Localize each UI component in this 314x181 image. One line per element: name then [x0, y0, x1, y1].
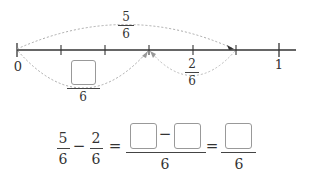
fraction-bar — [221, 152, 256, 153]
arrowhead-top-icon — [227, 45, 234, 50]
label-one: 1 — [273, 58, 285, 71]
fraction-bar — [67, 88, 100, 89]
fraction-bar — [90, 148, 103, 149]
fraction-numerator: 5 — [59, 131, 68, 145]
fraction-bar — [185, 72, 199, 73]
answer-box-subtrahend[interactable] — [174, 123, 201, 149]
answer-box-arc[interactable] — [71, 60, 96, 85]
fraction-denominator: 6 — [92, 152, 101, 166]
label-zero: 0 — [12, 60, 24, 73]
minus-operator: − — [72, 139, 86, 154]
fraction-bar — [57, 148, 70, 149]
number-line-diagram — [0, 0, 314, 181]
answer-box-minuend[interactable] — [130, 123, 157, 149]
equation-term2: 2 6 — [89, 131, 103, 166]
answer-box-result[interactable] — [225, 123, 252, 149]
fraction-numerator: 2 — [92, 131, 101, 145]
equals-sign: = — [108, 139, 122, 154]
minus-operator: − — [157, 127, 173, 142]
fraction-denominator: 6 — [188, 75, 196, 87]
fraction-bar — [126, 152, 206, 153]
fraction-numerator: 5 — [120, 11, 132, 23]
fraction-bar — [118, 25, 134, 26]
equation-term1: 5 6 — [56, 131, 70, 166]
top-arc-fraction: 5 6 — [116, 11, 136, 40]
fraction-denominator: 6 — [122, 28, 130, 40]
equals-sign: = — [205, 139, 219, 154]
fraction-numerator: 2 — [188, 58, 196, 70]
fraction-denominator: 6 — [158, 157, 172, 171]
fraction-denominator: 6 — [232, 157, 246, 171]
bottom-right-arc-fraction: 2 6 — [184, 58, 200, 87]
fraction-denominator: 6 — [77, 91, 89, 103]
fraction-denominator: 6 — [59, 152, 68, 166]
arrowhead-bottom-left-icon — [142, 51, 148, 58]
